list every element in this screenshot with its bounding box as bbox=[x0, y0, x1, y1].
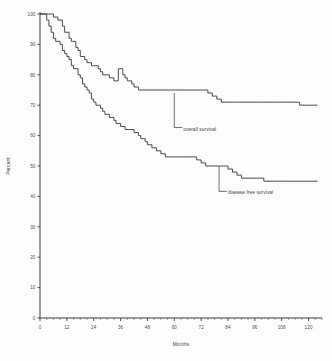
axes-group bbox=[40, 12, 322, 318]
y-tick-label: 60 bbox=[30, 133, 36, 138]
disease-free-survival-label: disease free survival bbox=[228, 190, 273, 195]
y-axis-ticks: 0102030405060708090100 bbox=[28, 12, 40, 321]
y-tick-label: 90 bbox=[30, 42, 36, 47]
leader-line bbox=[174, 93, 182, 127]
x-axis-title: Months bbox=[173, 342, 190, 347]
x-tick-label: 48 bbox=[145, 325, 151, 330]
x-tick-label: 84 bbox=[225, 325, 231, 330]
x-tick-label: 36 bbox=[118, 325, 124, 330]
y-tick-label: 50 bbox=[30, 164, 36, 169]
y-tick-label: 100 bbox=[28, 12, 36, 17]
x-tick-label: 108 bbox=[278, 325, 286, 330]
overall-survival-label: overall survival bbox=[183, 127, 216, 132]
x-tick-label: 120 bbox=[305, 325, 313, 330]
survival-curve-overall-survival bbox=[40, 14, 318, 105]
survival-curves bbox=[40, 14, 318, 181]
x-tick-label: 12 bbox=[64, 325, 70, 330]
y-tick-label: 70 bbox=[30, 103, 36, 108]
y-tick-label: 80 bbox=[30, 73, 36, 78]
y-tick-label: 20 bbox=[30, 255, 36, 260]
y-tick-label: 40 bbox=[30, 194, 36, 199]
figure-container: 0102030405060708090100 01224364860728496… bbox=[0, 0, 332, 361]
leader-line bbox=[219, 166, 227, 191]
y-tick-label: 30 bbox=[30, 225, 36, 230]
x-tick-label: 72 bbox=[198, 325, 204, 330]
x-tick-label: 96 bbox=[252, 325, 258, 330]
survival-curve-disease-free-survival bbox=[40, 14, 318, 181]
y-tick-label: 0 bbox=[33, 316, 36, 321]
x-axis-ticks: 01224364860728496108120 bbox=[39, 318, 322, 330]
curve-annotations: overall survivaldisease free survival bbox=[174, 93, 273, 195]
x-tick-label: 24 bbox=[91, 325, 97, 330]
y-tick-label: 10 bbox=[30, 285, 36, 290]
x-tick-label: 0 bbox=[39, 325, 42, 330]
x-tick-label: 60 bbox=[172, 325, 178, 330]
survival-chart: 0102030405060708090100 01224364860728496… bbox=[0, 0, 332, 361]
y-axis-title: Percent bbox=[6, 157, 11, 175]
